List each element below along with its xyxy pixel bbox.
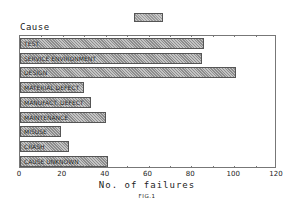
axis-tick xyxy=(191,166,192,168)
bar-label: MANUFACT. DEFECT xyxy=(24,99,84,107)
axis-tick xyxy=(84,35,85,37)
bar-label: MAINTENANCE xyxy=(24,114,68,122)
bar: MANUFACT. DEFECT xyxy=(20,97,91,108)
axis-tick xyxy=(127,166,128,168)
bar-label: MATERIAL DEFECT xyxy=(24,84,79,92)
x-tick-label: 40 xyxy=(100,170,109,178)
plot-area: TESTSERVICE ENVIRONMENTDESIGNMATERIAL DE… xyxy=(19,35,276,168)
axis-tick xyxy=(213,166,214,168)
legend-swatch xyxy=(134,13,163,22)
figure-caption: FIG.1 xyxy=(0,193,294,199)
bar-label: TEST xyxy=(24,40,39,48)
axis-tick xyxy=(149,166,150,168)
axis-tick xyxy=(106,35,107,37)
bar-label: SERVICE ENVIRONMENT xyxy=(24,55,96,63)
x-tick-label: 120 xyxy=(269,170,282,178)
axis-tick xyxy=(63,35,64,37)
x-tick-label: 20 xyxy=(57,170,66,178)
bar: DESIGN xyxy=(20,67,236,78)
x-axis-title: No. of failures xyxy=(0,180,294,190)
x-tick-label: 60 xyxy=(143,170,152,178)
x-tick-label: 0 xyxy=(17,170,21,178)
axis-tick xyxy=(41,35,42,37)
axis-tick xyxy=(191,35,192,37)
axis-tick xyxy=(84,166,85,168)
axis-tick xyxy=(63,166,64,168)
axis-tick xyxy=(170,166,171,168)
x-tick-label: 100 xyxy=(226,170,239,178)
axis-tick xyxy=(234,166,235,168)
bar: MATERIAL DEFECT xyxy=(20,82,84,93)
axis-tick xyxy=(256,166,257,168)
axis-tick xyxy=(127,35,128,37)
axis-tick xyxy=(256,35,257,37)
bar: CAUSE UNKNOWN xyxy=(20,156,108,167)
axis-tick xyxy=(106,166,107,168)
bar: SERVICE ENVIRONMENT xyxy=(20,53,202,64)
x-tick-label: 80 xyxy=(186,170,195,178)
bar-label: CAUSE UNKNOWN xyxy=(24,158,79,166)
axis-tick xyxy=(170,35,171,37)
axis-tick xyxy=(41,166,42,168)
axis-tick xyxy=(149,35,150,37)
bar: CRASH xyxy=(20,141,69,152)
bar: MAINTENANCE xyxy=(20,112,106,123)
bar-label: MISUSE xyxy=(24,128,47,136)
bar-label: CRASH xyxy=(24,143,45,151)
axis-tick xyxy=(234,35,235,37)
bar: TEST xyxy=(20,38,204,49)
axis-tick xyxy=(213,35,214,37)
bar-label: DESIGN xyxy=(24,69,47,77)
y-axis-title: Cause xyxy=(20,22,50,32)
bar: MISUSE xyxy=(20,126,61,137)
